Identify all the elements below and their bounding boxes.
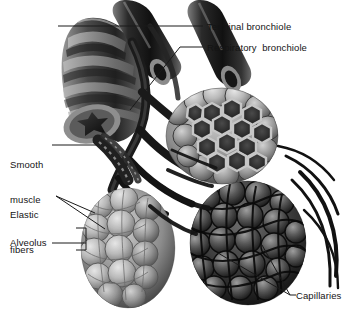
- label-elastic-fibers: Elastic fibers: [10, 186, 39, 278]
- label-alveolus: Alveolus: [10, 237, 47, 249]
- label-respiratory-bronchiole: Respiratory bronchiole: [207, 42, 307, 54]
- label-terminal-bronchiole: Terminal bronchiole: [207, 21, 291, 33]
- label-capillaries: Capillaries: [296, 290, 341, 302]
- alveoli-figure: Terminal bronchiole Respiratory bronchio…: [0, 0, 364, 324]
- label-smooth-muscle-line1: Smooth: [10, 159, 43, 171]
- label-elastic-fibers-line1: Elastic: [10, 209, 39, 221]
- anatomical-illustration: [0, 0, 364, 324]
